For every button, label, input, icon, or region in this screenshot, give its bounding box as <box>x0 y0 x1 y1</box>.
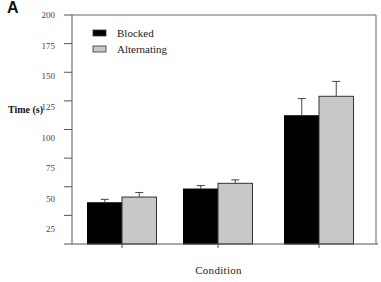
legend-swatch-blocked <box>93 30 106 36</box>
y-tick-label: 25 <box>46 224 56 234</box>
bar-blocked <box>88 203 123 244</box>
legend-label-blocked: Blocked <box>117 27 154 39</box>
bar-blocked <box>285 116 320 244</box>
bar-alternating <box>218 183 253 244</box>
legend-label-alternating: Alternating <box>117 43 168 55</box>
y-tick-label: 125 <box>42 102 56 112</box>
y-tick-label: 200 <box>42 10 56 20</box>
y-tick-label: 150 <box>42 71 56 81</box>
y-tick-label: 50 <box>46 194 56 204</box>
y-tick-label: 75 <box>46 163 56 173</box>
bar-alternating <box>122 197 157 244</box>
y-tick-label: 175 <box>42 41 56 51</box>
bar-blocked <box>184 189 219 244</box>
bar-chart: 200175150125100755025 BlockedAlternating <box>0 0 381 282</box>
x-axis <box>64 244 378 248</box>
legend: BlockedAlternating <box>93 27 168 55</box>
bar-series <box>88 81 354 244</box>
y-axis: 200175150125100755025 <box>42 10 73 244</box>
y-tick-label: 100 <box>42 133 56 143</box>
bar-alternating <box>319 96 354 244</box>
legend-swatch-alternating <box>93 46 106 52</box>
